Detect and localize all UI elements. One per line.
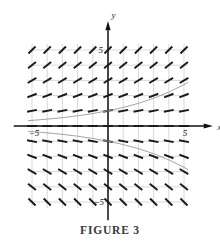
slope-segment — [164, 140, 174, 142]
slope-segment — [118, 110, 128, 112]
y-tick-label-five: 5 — [99, 45, 104, 55]
slope-segment — [73, 140, 83, 142]
slope-segment — [118, 140, 128, 142]
y-tick-label-negative-five: −5 — [93, 197, 104, 207]
slope-segment — [133, 110, 143, 112]
x-tick-label-negative-five: −5 — [29, 128, 40, 138]
axis-labels: −555−5xy — [29, 10, 220, 207]
slope-segment — [73, 110, 83, 112]
slope-segment — [88, 140, 98, 142]
slope-segment — [149, 140, 159, 142]
slope-segment — [179, 110, 189, 112]
slope-segment — [42, 110, 52, 112]
slope-field-plot: −555−5xy — [0, 0, 220, 222]
slope-segment — [42, 140, 52, 142]
slope-segment — [88, 110, 98, 112]
slope-segment — [149, 110, 159, 112]
solution-curve — [17, 131, 215, 188]
slope-segment — [27, 110, 37, 112]
figure-caption: FIGURE 3 — [0, 224, 220, 236]
x-tick-label-five: 5 — [183, 128, 188, 138]
slope-segment — [164, 110, 174, 112]
slope-segment — [57, 110, 67, 112]
figure-container: −555−5xy FIGURE 3 — [0, 0, 220, 250]
y-axis-label: y — [111, 10, 116, 20]
solution-curve — [17, 64, 215, 121]
slope-segment — [133, 140, 143, 142]
slope-segment — [179, 140, 189, 142]
slope-segment — [57, 140, 67, 142]
y-axis-arrowhead — [105, 21, 110, 30]
x-axis-arrowhead — [204, 123, 213, 128]
x-axis-label: x — [216, 122, 220, 132]
slope-segment — [27, 140, 37, 142]
